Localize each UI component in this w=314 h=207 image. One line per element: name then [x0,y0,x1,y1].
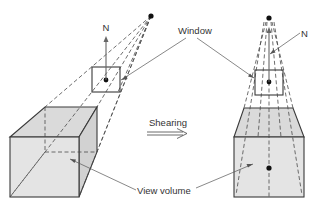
right-normal-arrowhead-icon [267,27,272,33]
view-volume-label: View volume [137,185,191,196]
shearing-label: Shearing [149,117,187,128]
double-arrow-head-icon [177,129,187,139]
window-leader-left [121,38,186,80]
left-normal-label: N [103,22,110,33]
left-cop-dot [148,13,153,18]
right-cop-dot [266,15,271,20]
right-panel [234,15,304,197]
normal-leader-arrowhead-icon [270,49,276,54]
shearing-diagram: N Shearing [0,0,314,207]
left-panel: N [10,13,154,197]
right-volume-center-dot [266,165,271,170]
window-leader-right [197,38,254,78]
left-normal-arrowhead-icon [104,36,109,42]
window-label: Window [178,25,212,36]
right-normal-label: N [301,28,308,39]
shearing-transition: Shearing [147,117,187,139]
left-box-front-face [10,137,79,197]
